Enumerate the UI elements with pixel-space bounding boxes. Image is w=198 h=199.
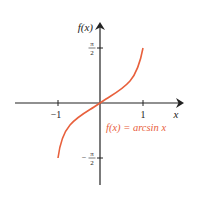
y-tick-label-neg-pi: π xyxy=(90,150,94,158)
x-axis-label: x xyxy=(173,108,179,120)
y-tick-label-pi: π xyxy=(90,40,94,48)
y-tick-label-2: 2 xyxy=(90,49,94,57)
y-tick-neg-sign: − xyxy=(82,153,87,162)
curve-label: f(x) = arcsin x xyxy=(106,122,166,134)
y-axis-label: f(x) xyxy=(78,21,94,34)
y-tick-label-neg-2: 2 xyxy=(90,159,94,167)
x-tick-label-1: 1 xyxy=(141,109,146,120)
x-tick-label-neg1: −1 xyxy=(51,109,62,120)
arcsin-chart: f(x) x −1 1 π 2 − π 2 f(x) = arcsin x xyxy=(0,0,198,199)
